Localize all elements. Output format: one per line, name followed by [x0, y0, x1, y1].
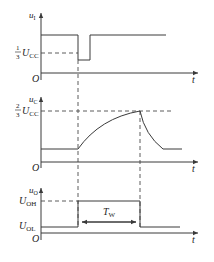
input-level-frac-den: 3 — [16, 53, 20, 61]
capacitor-x-label: t — [192, 163, 195, 174]
input-origin-label: O — [32, 73, 39, 84]
capacitor-origin-label: O — [32, 162, 39, 173]
output-high-label: UOH — [19, 195, 36, 208]
capacitor-level-label: UCC — [22, 105, 39, 118]
input-waveform — [41, 35, 166, 60]
output-low-label: UOL — [19, 220, 36, 233]
capacitor-level-frac-den: 3 — [16, 111, 20, 119]
capacitor-level-frac-num: 2 — [16, 102, 20, 110]
input-level-frac-num: 1 — [16, 44, 20, 52]
output-origin-label: O — [32, 233, 39, 244]
capacitor-y-label: uC — [29, 94, 38, 105]
input-x-label: t — [192, 74, 195, 85]
input-panel: uI O t 1 3 UCC — [15, 10, 198, 85]
timing-diagram: uI O t 1 3 UCC uC O t 2 3 UCC uO O t UOH — [0, 0, 214, 262]
output-panel: uO O t UOH UOL TW — [19, 185, 198, 245]
output-y-label: uO — [29, 185, 39, 196]
capacitor-panel: uC O t 2 3 UCC — [15, 94, 198, 174]
input-y-label: uI — [29, 10, 36, 21]
pulse-width-label: TW — [103, 206, 116, 219]
input-level-label: UCC — [22, 47, 39, 60]
capacitor-waveform — [41, 111, 182, 149]
output-x-label: t — [192, 234, 195, 245]
